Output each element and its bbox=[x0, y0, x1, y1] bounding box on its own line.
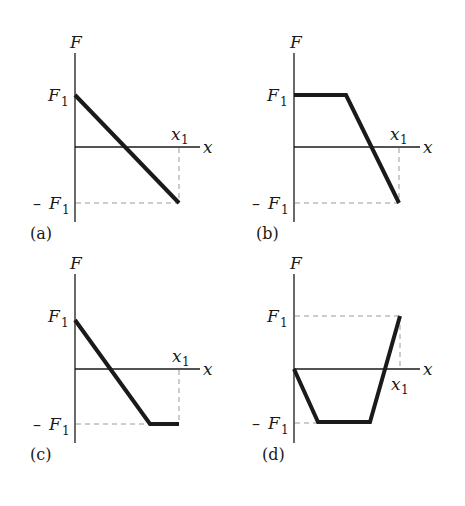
f1-label: F 1 bbox=[47, 85, 69, 109]
panel-a: F x F 1 – F 1 x 1 (a) bbox=[30, 32, 213, 243]
svg-text:F: F bbox=[47, 85, 61, 105]
svg-text:1: 1 bbox=[281, 423, 289, 437]
svg-text:F: F bbox=[47, 306, 61, 326]
panel-b: F x F 1 – F 1 x 1 (b) bbox=[252, 32, 433, 243]
neg-f1-label: – F 1 bbox=[252, 413, 289, 437]
y-axis-label: F bbox=[289, 253, 303, 273]
svg-text:x: x bbox=[391, 374, 401, 394]
svg-text:1: 1 bbox=[182, 355, 190, 369]
svg-text:F: F bbox=[48, 414, 62, 434]
svg-text:–: – bbox=[252, 194, 260, 213]
neg-f1-label: – F 1 bbox=[252, 193, 289, 217]
svg-text:x: x bbox=[172, 346, 182, 366]
svg-text:1: 1 bbox=[61, 95, 69, 109]
svg-text:F: F bbox=[267, 413, 281, 433]
panel-d: F x F 1 – F 1 x 1 (d) bbox=[252, 253, 433, 464]
force-curve bbox=[294, 95, 399, 203]
svg-text:F: F bbox=[48, 193, 62, 213]
svg-text:1: 1 bbox=[281, 203, 289, 217]
svg-text:F: F bbox=[266, 306, 280, 326]
y-axis-label: F bbox=[69, 253, 83, 273]
svg-text:–: – bbox=[33, 415, 41, 434]
y-axis-label: F bbox=[289, 32, 303, 52]
panel-caption: (c) bbox=[30, 445, 51, 464]
x-axis-label: x bbox=[423, 359, 433, 379]
neg-f1-label: – F 1 bbox=[33, 193, 70, 217]
panel-caption: (d) bbox=[262, 445, 285, 464]
svg-text:–: – bbox=[33, 194, 41, 213]
svg-text:1: 1 bbox=[61, 316, 69, 330]
f1-label: F 1 bbox=[266, 85, 288, 109]
y-axis-label: F bbox=[69, 32, 83, 52]
svg-text:1: 1 bbox=[280, 316, 288, 330]
f1-label: F 1 bbox=[266, 306, 288, 330]
x-axis-label: x bbox=[423, 137, 433, 157]
force-curve bbox=[75, 320, 179, 424]
neg-f1-label: – F 1 bbox=[33, 414, 70, 438]
x-axis-label: x bbox=[203, 359, 213, 379]
svg-text:1: 1 bbox=[400, 133, 408, 147]
panel-caption: (b) bbox=[256, 224, 279, 243]
x-axis-label: x bbox=[203, 137, 213, 157]
svg-text:1: 1 bbox=[280, 95, 288, 109]
x1-label: x 1 bbox=[172, 346, 190, 369]
figure-canvas: F x F 1 – F 1 x 1 (a) F x F 1 – F bbox=[0, 0, 465, 506]
svg-text:1: 1 bbox=[62, 203, 70, 217]
svg-text:x: x bbox=[390, 124, 400, 144]
panel-c: F x F 1 – F 1 x 1 (c) bbox=[30, 253, 213, 464]
x1-label: x 1 bbox=[171, 124, 189, 147]
svg-text:1: 1 bbox=[181, 133, 189, 147]
panel-caption: (a) bbox=[30, 224, 52, 243]
x1-label: x 1 bbox=[391, 374, 409, 397]
svg-text:–: – bbox=[252, 414, 260, 433]
f1-label: F 1 bbox=[47, 306, 69, 330]
svg-text:x: x bbox=[171, 124, 181, 144]
svg-text:1: 1 bbox=[62, 424, 70, 438]
svg-text:F: F bbox=[266, 85, 280, 105]
force-curve bbox=[75, 95, 179, 203]
svg-text:1: 1 bbox=[401, 383, 409, 397]
x1-label: x 1 bbox=[390, 124, 408, 147]
svg-text:F: F bbox=[267, 193, 281, 213]
